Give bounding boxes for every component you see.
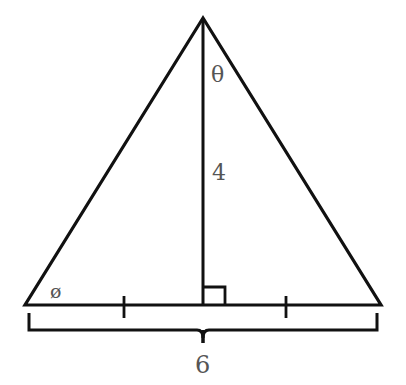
base-angle-label: ø [50, 280, 61, 302]
right-angle-marker [203, 287, 225, 305]
base-length-label: 6 [195, 351, 210, 379]
height-label: 4 [212, 160, 226, 185]
triangle-diagram: θ 4 ø 6 [0, 0, 406, 385]
apex-angle-label: θ [211, 62, 224, 87]
